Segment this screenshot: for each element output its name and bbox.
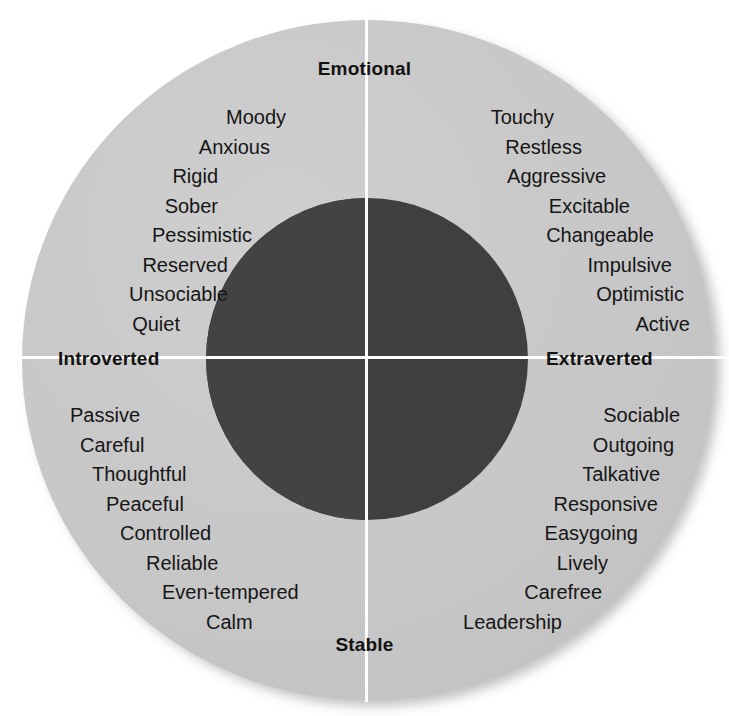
axis-label-extraverted-text: Extraverted — [540, 348, 659, 369]
trait-item: Anxious — [20, 133, 300, 163]
trait-item: Responsive — [400, 490, 680, 520]
trait-item: Changeable — [420, 221, 690, 251]
trait-item: Sociable — [400, 401, 680, 431]
axis-label-emotional-text: Emotional — [312, 58, 418, 79]
quadrant-traits-introverted-stable: Passive Careful Thoughtful Peaceful Cont… — [58, 401, 358, 637]
trait-item: Leadership — [400, 608, 680, 638]
trait-item: Excitable — [420, 192, 690, 222]
trait-item: Impulsive — [420, 251, 690, 281]
trait-item: Peaceful — [58, 490, 358, 520]
vertical-axis-line — [365, 18, 368, 702]
axis-label-extraverted: Extraverted — [540, 348, 659, 370]
trait-item: Outgoing — [400, 431, 680, 461]
trait-item: Reliable — [58, 549, 358, 579]
trait-item: Careful — [58, 431, 358, 461]
trait-item: Passive — [58, 401, 358, 431]
trait-item: Sober — [20, 192, 300, 222]
trait-item: Quiet — [20, 310, 300, 340]
trait-item: Even-tempered — [58, 578, 358, 608]
trait-item: Controlled — [58, 519, 358, 549]
quadrant-traits-extraverted-emotional: Touchy Restless Aggressive Excitable Cha… — [420, 103, 690, 339]
trait-item: Pessimistic — [20, 221, 300, 251]
trait-item: Rigid — [20, 162, 300, 192]
trait-item: Optimistic — [420, 280, 690, 310]
trait-item: Reserved — [20, 251, 300, 281]
trait-item: Aggressive — [420, 162, 690, 192]
quadrant-traits-introverted-emotional: Moody Anxious Rigid Sober Pessimistic Re… — [20, 103, 300, 339]
axis-label-stable: Stable — [0, 634, 729, 656]
trait-item: Carefree — [400, 578, 680, 608]
axis-label-emotional: Emotional — [0, 58, 729, 80]
trait-item: Talkative — [400, 460, 680, 490]
axis-label-introverted: Introverted — [52, 348, 165, 370]
axis-label-introverted-text: Introverted — [52, 348, 165, 369]
trait-item: Touchy — [420, 103, 690, 133]
trait-item: Unsociable — [20, 280, 300, 310]
trait-item: Moody — [20, 103, 300, 133]
trait-item: Lively — [400, 549, 680, 579]
trait-item: Restless — [420, 133, 690, 163]
personality-circle-figure: Emotional Stable Introverted Extraverted… — [0, 0, 729, 716]
quadrant-traits-extraverted-stable: Sociable Outgoing Talkative Responsive E… — [400, 401, 680, 637]
trait-item: Active — [420, 310, 690, 340]
trait-item: Calm — [58, 608, 358, 638]
trait-item: Easygoing — [400, 519, 680, 549]
trait-item: Thoughtful — [58, 460, 358, 490]
axis-label-stable-text: Stable — [329, 634, 399, 655]
